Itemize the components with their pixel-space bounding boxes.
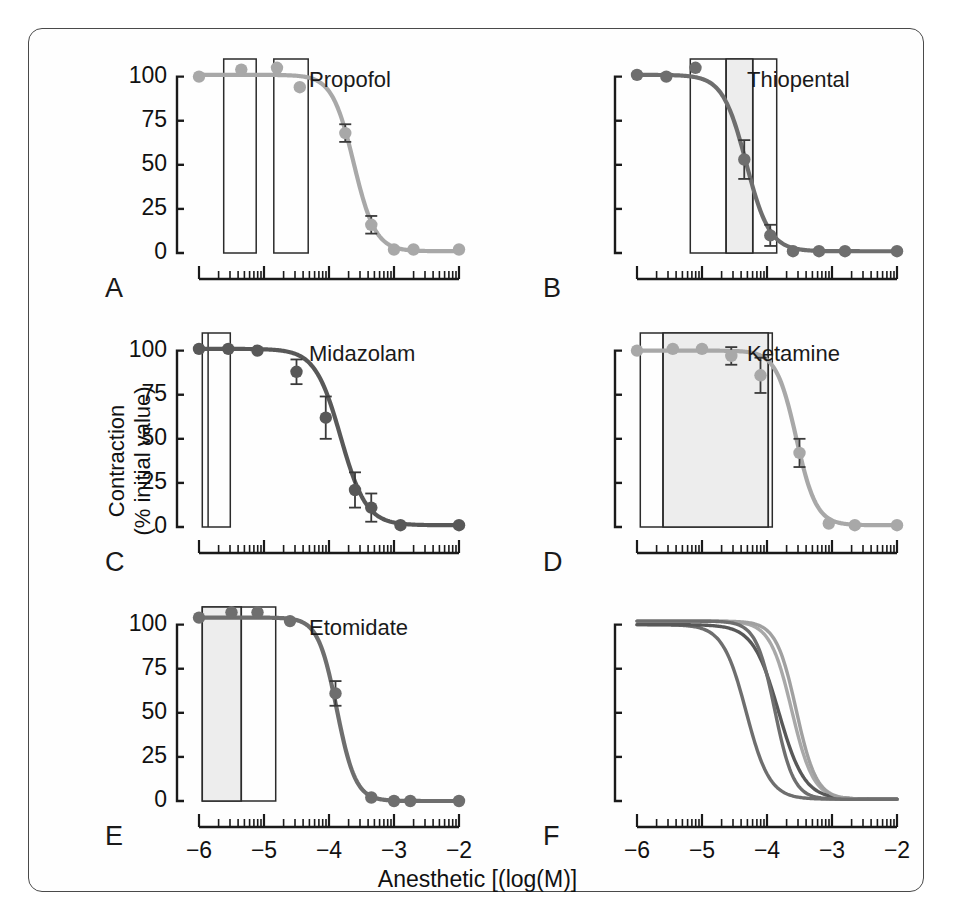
panel-letter-a: A bbox=[105, 273, 123, 304]
panel-letter-c: C bbox=[105, 547, 125, 578]
data-point bbox=[193, 70, 205, 82]
data-point bbox=[251, 606, 263, 618]
y-tick-label: 50 bbox=[111, 150, 167, 177]
x-tick-label: −3 bbox=[809, 837, 855, 864]
data-point bbox=[365, 501, 377, 513]
data-point bbox=[689, 62, 701, 74]
data-point bbox=[725, 350, 737, 362]
data-point bbox=[891, 245, 903, 257]
y-tick-label: 0 bbox=[111, 512, 167, 539]
data-point bbox=[453, 243, 465, 255]
dose-response-curve bbox=[199, 75, 459, 251]
data-point bbox=[453, 795, 465, 807]
data-point bbox=[839, 245, 851, 257]
data-point bbox=[631, 344, 643, 356]
data-point bbox=[394, 519, 406, 531]
data-point bbox=[225, 606, 237, 618]
panel-title-e: Etomidate bbox=[309, 615, 469, 641]
panel-letter-e: E bbox=[105, 821, 123, 852]
data-point bbox=[222, 343, 234, 355]
y-tick-label: 100 bbox=[111, 62, 167, 89]
data-point bbox=[764, 229, 776, 241]
panel-title-d: Ketamine bbox=[747, 341, 907, 367]
data-point bbox=[631, 69, 643, 81]
data-point bbox=[404, 795, 416, 807]
data-point bbox=[365, 791, 377, 803]
concentration-box-1 bbox=[202, 333, 230, 527]
dose-response-curve bbox=[199, 349, 459, 525]
panel-title-b: Thiopental bbox=[747, 67, 907, 93]
data-point bbox=[696, 343, 708, 355]
data-point bbox=[193, 611, 205, 623]
concentration-box-1 bbox=[224, 59, 257, 253]
y-tick-label: 0 bbox=[111, 786, 167, 813]
panel-f-plot bbox=[487, 585, 907, 853]
x-tick-label: −2 bbox=[436, 837, 482, 864]
x-tick-label: −2 bbox=[874, 837, 920, 864]
data-point bbox=[813, 245, 825, 257]
figure-frame: Contraction (% initial value) 1007550250… bbox=[28, 28, 924, 892]
panel-a: 1007550250APropofol bbox=[49, 37, 469, 305]
data-point bbox=[271, 62, 283, 74]
data-point bbox=[660, 70, 672, 82]
data-point bbox=[388, 795, 400, 807]
data-point bbox=[738, 153, 750, 165]
data-point bbox=[667, 343, 679, 355]
panel-letter-f: F bbox=[543, 821, 560, 852]
overlay-curve-thiopental bbox=[637, 625, 897, 800]
panel-b: BThiopental bbox=[487, 37, 907, 305]
data-point bbox=[407, 243, 419, 255]
data-point bbox=[453, 519, 465, 531]
y-tick-label: 50 bbox=[111, 698, 167, 725]
data-point bbox=[193, 343, 205, 355]
y-tick-label: 100 bbox=[111, 336, 167, 363]
data-point bbox=[235, 63, 247, 75]
data-point bbox=[754, 369, 766, 381]
data-point bbox=[339, 127, 351, 139]
y-tick-label: 75 bbox=[111, 654, 167, 681]
x-tick-label: −4 bbox=[744, 837, 790, 864]
y-tick-label: 75 bbox=[111, 106, 167, 133]
data-point bbox=[320, 412, 332, 424]
panel-d: DKetamine bbox=[487, 311, 907, 579]
x-tick-label: −6 bbox=[614, 837, 660, 864]
data-point bbox=[793, 447, 805, 459]
x-tick-label: −5 bbox=[241, 837, 287, 864]
panel-e: 1007550250−6−5−4−3−2EEtomidate bbox=[49, 585, 469, 853]
data-point bbox=[294, 81, 306, 93]
data-point bbox=[251, 344, 263, 356]
x-axis-title: Anesthetic [(log(M)] bbox=[0, 866, 955, 893]
panel-title-c: Midazolam bbox=[309, 341, 469, 367]
panel-letter-d: D bbox=[543, 547, 563, 578]
data-point bbox=[284, 615, 296, 627]
data-point bbox=[365, 219, 377, 231]
x-tick-label: −6 bbox=[176, 837, 222, 864]
panel-letter-b: B bbox=[543, 273, 561, 304]
data-point bbox=[290, 366, 302, 378]
panel-title-a: Propofol bbox=[309, 67, 469, 93]
data-point bbox=[849, 519, 861, 531]
y-tick-label: 25 bbox=[111, 468, 167, 495]
x-tick-label: −4 bbox=[306, 837, 352, 864]
panel-c: 1007550250CMidazolam bbox=[49, 311, 469, 579]
y-tick-label: 0 bbox=[111, 238, 167, 265]
y-tick-label: 50 bbox=[111, 424, 167, 451]
x-tick-label: −3 bbox=[371, 837, 417, 864]
concentration-box-2 bbox=[202, 607, 241, 801]
data-point bbox=[349, 484, 361, 496]
data-point bbox=[787, 245, 799, 257]
data-point bbox=[329, 687, 341, 699]
data-point bbox=[388, 243, 400, 255]
y-tick-label: 75 bbox=[111, 380, 167, 407]
x-tick-label: −5 bbox=[679, 837, 725, 864]
y-tick-label: 25 bbox=[111, 742, 167, 769]
y-tick-label: 100 bbox=[111, 610, 167, 637]
panel-f: −6−5−4−3−2F bbox=[487, 585, 907, 853]
data-point bbox=[891, 519, 903, 531]
y-tick-label: 25 bbox=[111, 194, 167, 221]
data-point bbox=[823, 517, 835, 529]
